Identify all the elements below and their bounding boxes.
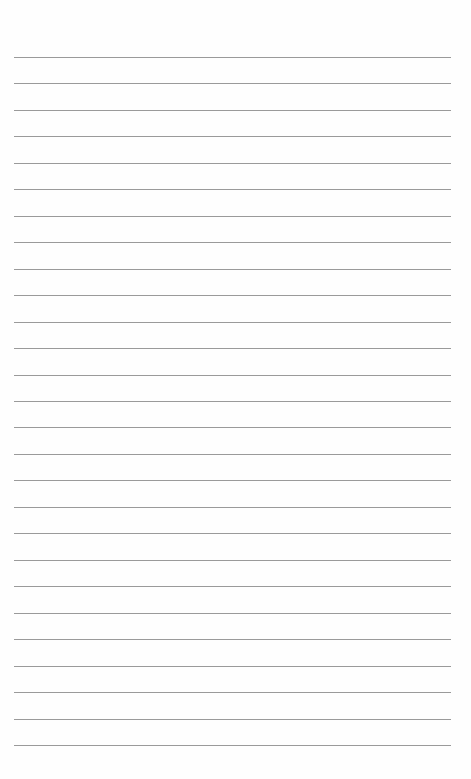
ruled-line xyxy=(14,83,451,84)
ruled-line xyxy=(14,719,451,720)
ruled-line xyxy=(14,295,451,296)
ruled-line xyxy=(14,692,451,693)
ruled-line xyxy=(14,639,451,640)
ruled-line xyxy=(14,560,451,561)
ruled-line xyxy=(14,586,451,587)
ruled-line xyxy=(14,57,451,58)
ruled-line xyxy=(14,136,451,137)
ruled-line xyxy=(14,242,451,243)
ruled-line xyxy=(14,189,451,190)
lined-paper-sheet xyxy=(0,0,471,779)
ruled-line xyxy=(14,613,451,614)
ruled-line xyxy=(14,348,451,349)
ruled-line xyxy=(14,401,451,402)
ruled-line xyxy=(14,375,451,376)
ruled-line xyxy=(14,454,451,455)
ruled-line xyxy=(14,666,451,667)
ruled-line xyxy=(14,507,451,508)
ruled-line xyxy=(14,216,451,217)
ruled-line xyxy=(14,163,451,164)
ruled-line xyxy=(14,480,451,481)
ruled-line xyxy=(14,269,451,270)
ruled-line xyxy=(14,533,451,534)
ruled-line xyxy=(14,322,451,323)
ruled-line xyxy=(14,110,451,111)
ruled-line xyxy=(14,745,451,746)
ruled-line xyxy=(14,427,451,428)
